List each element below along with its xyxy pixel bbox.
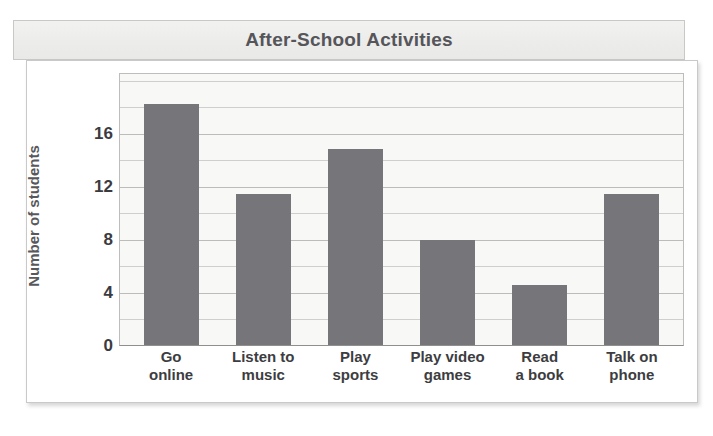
y-tick-label: 16 — [73, 124, 113, 144]
x-label-line2: a book — [495, 366, 585, 384]
x-label-read-a-book: Read a book — [495, 348, 585, 383]
x-label-line1: Read — [521, 348, 558, 365]
y-tick-label: 8 — [73, 230, 113, 250]
y-tick-label: 0 — [73, 336, 113, 356]
bar-series — [120, 74, 683, 345]
x-label-line2: music — [218, 366, 308, 384]
x-label-listen-to-music: Listen to music — [218, 348, 308, 383]
bar-talk-on-phone — [604, 194, 659, 345]
x-label-go-online: Go online — [126, 348, 216, 383]
x-label-line1: Go — [161, 348, 182, 365]
y-axis-ticks: 16 12 8 4 0 — [73, 61, 113, 404]
chart-title-bar: After-School Activities — [13, 20, 685, 60]
x-label-line1: Play video — [410, 348, 484, 365]
x-axis-labels: Go online Listen to music Play sports Pl… — [119, 348, 684, 383]
chart-card: Number of students 16 12 8 4 0 — [26, 60, 698, 403]
bar-listen-to-music — [236, 194, 291, 345]
x-label-line2: online — [126, 366, 216, 384]
x-label-line2: games — [403, 366, 493, 384]
y-axis-title: Number of students — [22, 121, 44, 311]
page-title: After-School Activities — [245, 29, 453, 51]
y-tick-label: 4 — [73, 283, 113, 303]
x-label-line2: sports — [310, 366, 400, 384]
x-label-line1: Play — [340, 348, 371, 365]
bar-play-sports — [328, 149, 383, 345]
x-label-talk-on-phone: Talk on phone — [587, 348, 677, 383]
x-label-line2: phone — [587, 366, 677, 384]
bar-read-a-book — [512, 285, 567, 345]
x-label-line1: Talk on — [606, 348, 657, 365]
y-tick-label: 12 — [73, 177, 113, 197]
chart-screenshot: After-School Activities Number of studen… — [0, 0, 713, 436]
x-label-play-video-games: Play video games — [403, 348, 493, 383]
bar-play-video-games — [420, 240, 475, 345]
x-label-play-sports: Play sports — [310, 348, 400, 383]
plot-area — [119, 73, 684, 346]
x-label-line1: Listen to — [232, 348, 295, 365]
bar-go-online — [144, 104, 199, 345]
